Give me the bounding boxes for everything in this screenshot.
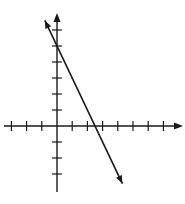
axes <box>4 13 183 192</box>
y-axis-arrow-icon <box>54 13 61 22</box>
line-arrow-end-icon <box>116 175 122 184</box>
x-axis-arrow-icon <box>174 123 183 130</box>
line-arrow-start-icon <box>45 20 51 29</box>
coordinate-graph <box>0 0 185 204</box>
